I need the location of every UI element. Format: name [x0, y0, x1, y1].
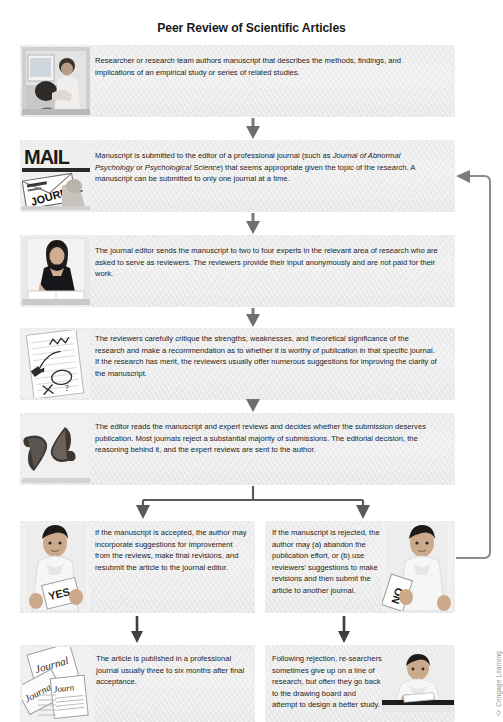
- researchers-at-computer-photo: [22, 47, 90, 115]
- arrow-submission-to-editor-sends: [246, 213, 260, 234]
- arrow-editor-sends-to-critique: [246, 308, 260, 327]
- figure-title: Peer Review of Scientific Articles: [0, 21, 503, 35]
- arrow-accepted-to-published: [131, 616, 143, 643]
- submission-text-b: or: [134, 163, 145, 172]
- peer-review-flowchart: Peer Review of Scientific Articles Resea…: [0, 0, 503, 722]
- svg-text:MAIL: MAIL: [24, 146, 70, 168]
- editor-woman-reading-photo: [22, 237, 90, 305]
- arrow-split-to-branches: [136, 486, 370, 519]
- arrow-resubmit-feedback-loop: [456, 170, 490, 558]
- thumbs-up-thumbs-down-photo: [22, 415, 90, 483]
- journal-title-psychological-science: Psychological Science: [145, 163, 221, 172]
- outcome-text-published: The article is published in a profession…: [96, 653, 246, 688]
- researcher-at-desk-photo: [382, 654, 454, 712]
- branch-text-rejected: If the manuscript is rejected, the autho…: [272, 527, 384, 597]
- arrow-authoring-to-submission: [246, 118, 260, 139]
- arrow-rejected-to-redesign: [338, 616, 350, 643]
- arrow-critique-to-editor-decides: [246, 399, 260, 412]
- step-text-submission: Manuscript is submitted to the editor of…: [95, 150, 440, 185]
- submission-text-a: Manuscript is submitted to the editor of…: [95, 151, 333, 160]
- step-text-reviewers-critique: The reviewers carefully critique the str…: [95, 333, 440, 379]
- marked-up-manuscript-photo: ?: [22, 330, 90, 398]
- step-text-authoring: Researcher or research team authors manu…: [95, 55, 440, 78]
- branch-text-accepted: If the manuscript is accepted, the autho…: [95, 527, 247, 573]
- step-text-editor-sends: The journal editor sends the manuscript …: [95, 245, 440, 280]
- copyright-credit: © Cengage Learning: [495, 651, 502, 716]
- mail-journal-envelope-photo: MAIL JOURNAL: [22, 142, 90, 210]
- step-text-editor-decides: The editor reads the manuscript and expe…: [95, 421, 440, 456]
- outcome-text-redesign: Following rejection, re-searchers someti…: [272, 653, 382, 711]
- stack-of-journals-photo: Journal Journal Journ: [22, 647, 94, 722]
- man-holding-yes-sign-photo: YES: [22, 523, 90, 611]
- man-holding-no-sign-photo: NO: [382, 523, 452, 611]
